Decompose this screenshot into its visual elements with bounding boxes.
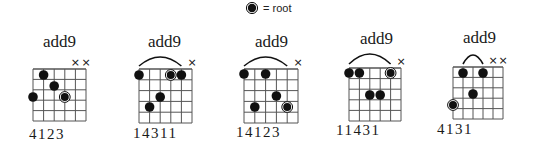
muted-string-x-icon: × (498, 54, 507, 67)
root-note-dot (449, 101, 457, 109)
finger-dot (468, 89, 478, 99)
chord-chart: = root add94123××add914311×add914123×add… (0, 0, 537, 152)
finger-dot (458, 68, 468, 78)
muted-string-x-icon: × (488, 54, 497, 67)
barre-arc (463, 55, 483, 64)
fretboard-grid: ×× (0, 0, 537, 152)
finger-dot (478, 68, 488, 78)
